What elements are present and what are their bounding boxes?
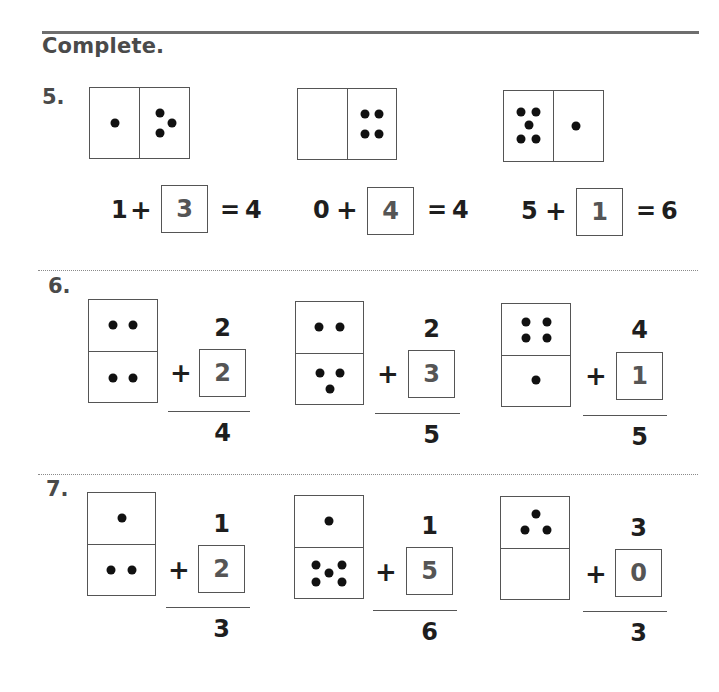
domino-half-top bbox=[89, 300, 157, 351]
answer-value: 2 bbox=[213, 555, 230, 583]
section-divider bbox=[38, 474, 698, 475]
pip-icon bbox=[542, 334, 551, 343]
plus-sign: + bbox=[375, 559, 397, 585]
pip-icon bbox=[110, 119, 119, 128]
top-addend: 4 bbox=[616, 318, 663, 342]
sum: 4 bbox=[245, 198, 262, 222]
plus-sign: + bbox=[170, 360, 192, 386]
pip-icon bbox=[315, 323, 324, 332]
pip-icon bbox=[360, 129, 369, 138]
pip-icon bbox=[532, 108, 541, 117]
plus-sign: + bbox=[130, 197, 152, 223]
domino-half-top bbox=[88, 493, 155, 544]
answer-value: 3 bbox=[423, 360, 440, 388]
domino-5b bbox=[297, 88, 397, 160]
pip-icon bbox=[312, 577, 321, 586]
pip-icon bbox=[316, 368, 325, 377]
answer-value: 5 bbox=[421, 557, 438, 585]
sum-bar bbox=[583, 415, 667, 416]
section-divider bbox=[38, 270, 698, 271]
top-addend: 1 bbox=[406, 514, 453, 538]
pip-icon bbox=[335, 323, 344, 332]
sum-bar bbox=[373, 610, 457, 611]
answer-box[interactable]: 0 bbox=[615, 549, 662, 597]
domino-half-bottom bbox=[88, 544, 155, 596]
pip-icon bbox=[360, 110, 369, 119]
pip-icon bbox=[155, 128, 164, 137]
addend: 0 bbox=[313, 198, 330, 222]
sum-bar bbox=[583, 611, 667, 612]
pip-icon bbox=[155, 109, 164, 118]
answer-box[interactable]: 1 bbox=[616, 352, 663, 400]
domino-half-bottom bbox=[501, 548, 569, 600]
pip-icon bbox=[522, 334, 531, 343]
domino-7c bbox=[500, 496, 570, 600]
equals-sign: = bbox=[220, 198, 240, 222]
pip-icon bbox=[524, 120, 533, 129]
domino-half-left bbox=[90, 88, 139, 158]
plus-sign: + bbox=[336, 197, 358, 223]
sum: 4 bbox=[452, 198, 469, 222]
answer-box[interactable]: 4 bbox=[367, 187, 414, 235]
addend: 5 bbox=[521, 199, 538, 223]
sum: 5 bbox=[616, 425, 663, 449]
pip-icon bbox=[127, 565, 136, 574]
top-addend: 2 bbox=[408, 317, 455, 341]
domino-6a bbox=[88, 299, 158, 403]
domino-half-right bbox=[139, 88, 189, 158]
sum: 5 bbox=[408, 423, 455, 447]
pip-icon bbox=[571, 122, 580, 131]
pip-icon bbox=[374, 129, 383, 138]
plus-sign: + bbox=[168, 557, 190, 583]
pip-icon bbox=[522, 317, 531, 326]
pip-icon bbox=[168, 119, 177, 128]
pip-icon bbox=[516, 134, 525, 143]
sum: 4 bbox=[199, 421, 246, 445]
pip-icon bbox=[516, 108, 525, 117]
pip-icon bbox=[532, 134, 541, 143]
addend: 1 bbox=[111, 198, 128, 222]
pip-icon bbox=[542, 317, 551, 326]
plus-sign: + bbox=[585, 363, 607, 389]
domino-half-bottom bbox=[296, 353, 363, 405]
plus-sign: + bbox=[585, 561, 607, 587]
sum: 3 bbox=[615, 621, 662, 645]
pip-icon bbox=[312, 561, 321, 570]
answer-value: 0 bbox=[630, 559, 647, 587]
answer-value: 3 bbox=[176, 195, 193, 223]
answer-box[interactable]: 3 bbox=[161, 185, 208, 233]
domino-half-bottom bbox=[89, 351, 157, 403]
sum-bar bbox=[168, 411, 250, 412]
sum: 6 bbox=[661, 199, 678, 223]
domino-half-left bbox=[504, 91, 553, 161]
domino-half-top bbox=[295, 496, 363, 547]
pip-icon bbox=[326, 384, 335, 393]
answer-box[interactable]: 3 bbox=[408, 350, 455, 398]
answer-box[interactable]: 2 bbox=[198, 545, 245, 593]
pip-icon bbox=[336, 368, 345, 377]
pip-icon bbox=[129, 373, 138, 382]
domino-half-top bbox=[296, 302, 363, 353]
top-addend: 2 bbox=[199, 316, 246, 340]
pip-icon bbox=[108, 321, 117, 330]
pip-icon bbox=[129, 321, 138, 330]
question-number-7: 7. bbox=[46, 477, 69, 501]
domino-7b bbox=[294, 495, 364, 599]
answer-box[interactable]: 5 bbox=[406, 547, 453, 595]
domino-half-bottom bbox=[295, 547, 363, 599]
pip-icon bbox=[325, 568, 334, 577]
domino-half-top bbox=[501, 497, 569, 548]
plus-sign: + bbox=[545, 198, 567, 224]
pip-icon bbox=[542, 525, 551, 534]
domino-5c bbox=[503, 90, 604, 162]
domino-6b bbox=[295, 301, 364, 405]
question-number-5: 5. bbox=[42, 85, 65, 109]
answer-box[interactable]: 1 bbox=[576, 188, 623, 236]
answer-box[interactable]: 2 bbox=[199, 349, 246, 397]
pip-icon bbox=[337, 577, 346, 586]
equals-sign: = bbox=[636, 199, 656, 223]
pip-icon bbox=[531, 509, 540, 518]
answer-value: 1 bbox=[631, 362, 648, 390]
sum-bar bbox=[375, 413, 460, 414]
domino-5a bbox=[89, 87, 190, 159]
